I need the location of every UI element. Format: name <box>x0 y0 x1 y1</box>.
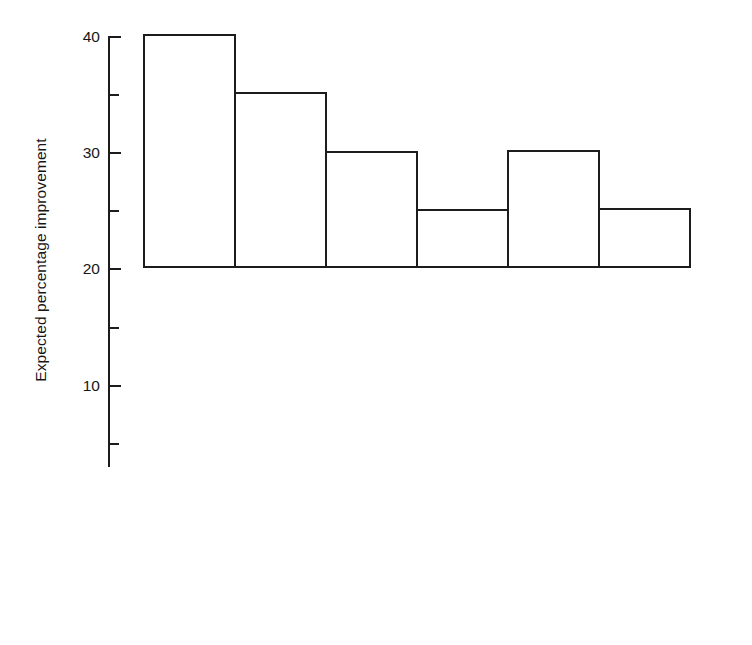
bar-task-1-different-procedure <box>234 92 327 267</box>
y-tick-10 <box>110 385 121 387</box>
y-tick-label-40: 40 <box>56 29 100 45</box>
bar-chart-figure: Expected percentage improvement 40 30 20… <box>0 0 752 467</box>
bar-new-computer-application-program <box>598 208 691 268</box>
y-tick-label-10: 10 <box>56 378 100 394</box>
y-tick-label-30: 30 <box>56 145 100 161</box>
bar-task-3-different-procedure <box>416 209 509 267</box>
y-tick-5 <box>110 443 119 445</box>
bar-get-a-new-reliable-printer <box>507 150 600 268</box>
bar-purchase-two-additional-printers <box>143 34 236 268</box>
bar-task-2-different-procedure <box>325 151 418 268</box>
plot-area: 40 30 20 10 0 <box>108 36 728 467</box>
y-axis-tick-labels: 40 30 20 10 0 <box>56 36 100 467</box>
y-tick-label-20: 20 <box>56 261 100 277</box>
bar-series <box>108 36 728 270</box>
y-tick-15 <box>110 327 119 329</box>
y-axis-title: Expected percentage improvement <box>24 40 58 467</box>
